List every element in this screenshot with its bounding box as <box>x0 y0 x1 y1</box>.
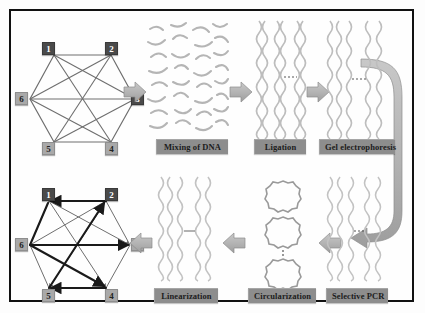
output-node-4: 4 <box>105 289 118 302</box>
figure-frame: 1 2 3 4 5 6 <box>9 9 414 302</box>
arrow-circular-to-linear <box>223 233 245 253</box>
label-linearization: Linearization <box>154 288 218 303</box>
random-dna-fragments <box>148 23 228 130</box>
output-node-6: 6 <box>15 238 28 251</box>
linearization-panel <box>155 175 217 287</box>
figure-root: 1 2 3 4 5 6 <box>0 0 425 313</box>
output-node-1: 1 <box>42 188 55 201</box>
input-node-6: 6 <box>15 92 28 105</box>
output-node-5: 5 <box>42 289 55 302</box>
label-ligation: Ligation <box>254 139 306 154</box>
ligation-panel <box>251 19 311 139</box>
pcr-lane-strands <box>328 177 381 281</box>
dna-circles <box>265 181 301 290</box>
output-graph-panel: 1 2 3 4 5 6 <box>11 163 151 304</box>
input-node-3: 3 <box>131 92 144 105</box>
ligation-duplex-strands <box>257 21 306 139</box>
gel-lane-strands <box>328 21 382 139</box>
output-graph-svg <box>11 163 151 304</box>
label-gel-electrophoresis: Gel electrophoresis <box>319 139 395 154</box>
label-circularization: Circularization <box>248 288 316 303</box>
input-graph-edges <box>30 55 135 142</box>
gel-electrophoresis-panel <box>323 19 389 139</box>
input-node-4: 4 <box>105 142 118 155</box>
output-node-3: 3 <box>131 238 144 251</box>
circularization-panel <box>254 175 312 287</box>
mixing-of-dna-panel <box>145 19 231 137</box>
arrow-mixing-to-ligation <box>230 82 252 102</box>
selective-pcr-panel <box>323 175 389 287</box>
label-mixing-of-dna: Mixing of DNA <box>156 139 228 154</box>
input-node-1: 1 <box>42 42 55 55</box>
input-graph-panel: 1 2 3 4 5 6 <box>11 11 151 156</box>
input-node-5: 5 <box>42 142 55 155</box>
linearization-strands <box>159 177 211 281</box>
input-node-2: 2 <box>105 42 118 55</box>
input-graph-svg <box>11 11 151 156</box>
label-selective-pcr: Selective PCR <box>326 288 388 303</box>
output-node-2: 2 <box>105 188 118 201</box>
